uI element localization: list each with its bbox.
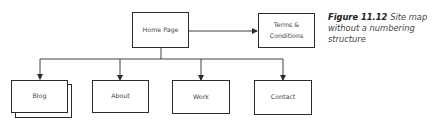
figure-label: Figure 11.12 bbox=[328, 12, 387, 22]
figure-caption: Figure 11.12Site map without a numbering… bbox=[328, 12, 446, 45]
node-work-label: Work bbox=[193, 92, 209, 103]
node-terms-label-line1: Terms & bbox=[274, 20, 299, 31]
node-work: Work bbox=[172, 80, 230, 114]
node-about-label: About bbox=[111, 91, 130, 102]
node-blog-label: Blog bbox=[33, 91, 47, 102]
node-terms-conditions: Terms & Conditions bbox=[258, 13, 315, 48]
node-about: About bbox=[92, 80, 149, 113]
node-home-page: Home Page bbox=[132, 12, 189, 48]
node-terms-label-line2: Conditions bbox=[270, 31, 303, 42]
node-blog: Blog bbox=[11, 80, 68, 113]
node-home-page-label: Home Page bbox=[143, 25, 179, 36]
node-contact: Contact bbox=[254, 80, 312, 115]
node-contact-label: Contact bbox=[271, 92, 296, 103]
site-map-diagram: Home Page Terms & Conditions Blog About … bbox=[0, 0, 447, 126]
